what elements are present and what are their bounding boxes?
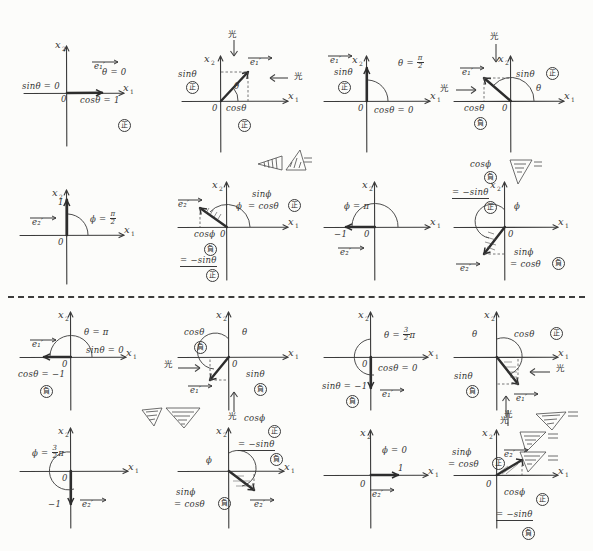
label-cos-phi-equals: = −sinθ bbox=[180, 256, 217, 267]
svg-text:2: 2 bbox=[223, 315, 227, 322]
label-cos-phi-equals: = −sinθ bbox=[452, 188, 489, 199]
svg-text:x: x bbox=[558, 347, 564, 358]
diagram-panel-theta-q2: x 2 x 1 e₁′ sinθ cosθ θ 光 光 正 負 0 bbox=[452, 34, 593, 164]
vector-label-e2: e₂′ bbox=[460, 264, 471, 273]
label-origin: 0 bbox=[364, 230, 370, 239]
diagram-panel-phi-q4: x 2 x 1 cosϕ = −sinθ ϕ sinϕ = cosθ e₂′ 正… bbox=[176, 424, 324, 551]
label-cos-theta: cosθ = 0 bbox=[378, 364, 418, 373]
svg-text:2: 2 bbox=[497, 185, 501, 192]
svg-text:x: x bbox=[126, 347, 132, 358]
svg-text:x: x bbox=[360, 427, 366, 438]
sign-badge-positive: 正 bbox=[484, 201, 497, 214]
diagram-panel-phi-0: x 2 x 1 ϕ = 0 1 0 e₂′ bbox=[322, 424, 470, 551]
vector-label-e2: e₂′ bbox=[32, 218, 43, 227]
svg-text:2: 2 bbox=[367, 433, 371, 440]
notebook-sheet: x 2 x 1 sinθ = 0 θ = 0 cosθ = 1 0 e₁′ 正 bbox=[0, 0, 593, 551]
label-angle-theta: θ = π2 bbox=[398, 56, 424, 71]
svg-text:2: 2 bbox=[505, 59, 509, 66]
label-angle-phi: ϕ = π bbox=[344, 202, 369, 211]
svg-text:2: 2 bbox=[211, 59, 215, 66]
label-origin: 0 bbox=[508, 230, 514, 239]
diagram-panel-theta-3pi-2: x 2 x 1 θ = 32π cosθ = 0 0 sinθ = −1 e₁′… bbox=[322, 306, 470, 436]
sign-badge-negative: 負 bbox=[218, 497, 231, 510]
svg-text:1: 1 bbox=[291, 467, 295, 474]
label-origin: 0 bbox=[232, 360, 238, 369]
hatched-triangle-sketch bbox=[502, 158, 558, 192]
label-angle-phi: ϕ = 0 bbox=[382, 446, 407, 455]
diagram-panel-phi-3pi-2: x 2 x 1 ϕ = 32π 0 −1 e₂′ bbox=[18, 424, 166, 551]
sign-badge-negative: 負 bbox=[194, 341, 207, 354]
label-angle-phi: ϕ = π2 bbox=[90, 212, 116, 227]
svg-text:1: 1 bbox=[131, 230, 135, 237]
vector-label-e1: e₁′ bbox=[516, 394, 527, 403]
label-unit-one: 1 bbox=[398, 464, 404, 473]
svg-text:1: 1 bbox=[295, 222, 299, 229]
sign-badge-negative: 負 bbox=[484, 171, 497, 184]
svg-text:x: x bbox=[55, 39, 61, 50]
diagram-panel-phi-pi: x 2 x 1 ϕ = π −1 0 e₂′ bbox=[322, 172, 470, 302]
svg-text:2: 2 bbox=[359, 60, 363, 67]
label-origin: 0 bbox=[58, 238, 64, 247]
svg-text:x: x bbox=[428, 347, 434, 358]
hatched-triangle-sketch bbox=[516, 430, 564, 474]
label-angle-phi: ϕ bbox=[514, 202, 520, 211]
light-label: 光 bbox=[440, 84, 449, 93]
svg-text:2: 2 bbox=[489, 433, 493, 440]
label-origin: 0 bbox=[220, 230, 226, 239]
label-cos-theta: cosθ bbox=[184, 328, 205, 337]
svg-text:1: 1 bbox=[295, 353, 299, 360]
label-angle-theta: θ bbox=[234, 82, 239, 91]
svg-text:x: x bbox=[124, 224, 130, 235]
sign-badge-negative: 負 bbox=[466, 385, 479, 398]
vector-label-e2: e₂′ bbox=[340, 248, 351, 257]
label-sin-phi-equals: = cosθ bbox=[174, 500, 205, 509]
svg-text:x: x bbox=[288, 347, 294, 358]
label-angle-phi: ϕ bbox=[236, 202, 242, 211]
sign-badge-positive: 正 bbox=[268, 425, 281, 438]
diagram-panel-phi-q2: x 2 x 1 e₂′ ϕ sinϕ = cosθ cosϕ 0 = −sinθ… bbox=[176, 172, 324, 302]
sign-badge-positive: 正 bbox=[550, 327, 563, 340]
svg-text:x: x bbox=[362, 179, 368, 190]
label-sin-theta: sinθ = 0 bbox=[22, 82, 60, 91]
vector-label-e2: e₂′ bbox=[178, 200, 189, 209]
sign-badge-positive: 正 bbox=[338, 81, 351, 94]
sign-badge-negative: 負 bbox=[204, 243, 217, 256]
label-angle-phi: ϕ = 32π bbox=[32, 446, 64, 461]
label-sin-theta: sinθ = 0 bbox=[86, 346, 124, 355]
svg-text:2: 2 bbox=[369, 185, 373, 192]
label-sin-theta: sinθ bbox=[246, 370, 265, 379]
svg-text:x: x bbox=[58, 309, 64, 320]
sign-badge-positive: 正 bbox=[546, 67, 559, 80]
svg-text:2: 2 bbox=[62, 45, 66, 52]
label-angle-theta: θ = 32π bbox=[384, 328, 416, 343]
vector-label-e1: e₁′ bbox=[330, 56, 341, 65]
sign-badge-positive: 正 bbox=[118, 119, 131, 132]
sign-badge-positive: 正 bbox=[186, 81, 199, 94]
label-minus-one: −1 bbox=[48, 500, 61, 509]
origin-label: 0 bbox=[212, 104, 218, 113]
label-minus-one: −1 bbox=[334, 230, 347, 239]
label-origin: 0 bbox=[62, 474, 68, 483]
vector-label-e1: e₁′ bbox=[250, 58, 261, 67]
svg-text:2: 2 bbox=[223, 431, 227, 438]
svg-text:1: 1 bbox=[565, 222, 569, 229]
svg-text:x: x bbox=[212, 179, 218, 190]
svg-text:2: 2 bbox=[491, 315, 495, 322]
svg-text:x: x bbox=[216, 425, 222, 436]
label-angle-theta: θ = π bbox=[84, 328, 109, 337]
label-cos-theta: cosθ = 0 bbox=[374, 106, 414, 115]
section-divider bbox=[8, 296, 585, 298]
label-origin: 0 bbox=[62, 360, 68, 369]
sign-badge-negative: 負 bbox=[40, 385, 53, 398]
svg-text:x: x bbox=[358, 309, 364, 320]
svg-text:x: x bbox=[284, 461, 290, 472]
label-sin-theta: sinθ bbox=[516, 70, 535, 79]
svg-text:x: x bbox=[430, 90, 436, 101]
svg-text:x: x bbox=[484, 309, 490, 320]
label-origin: 0 bbox=[362, 360, 368, 369]
sign-badge-positive: 正 bbox=[492, 457, 505, 470]
label-sin-phi: sinϕ bbox=[452, 448, 472, 457]
light-label: 光 bbox=[504, 410, 513, 419]
label-cos-theta: cosθ bbox=[464, 104, 485, 113]
label-cos-phi-equals: = −sinθ bbox=[238, 440, 275, 451]
